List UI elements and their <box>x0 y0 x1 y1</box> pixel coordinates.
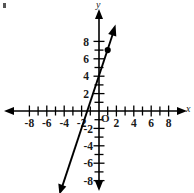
x-tick-label: -4 <box>59 117 69 129</box>
graph-figure: -8 -6 -4 -2 2 4 6 8 x <box>0 0 194 193</box>
plotted-point <box>105 47 111 53</box>
x-axis-left-arrow-icon <box>4 107 14 115</box>
y-tick-label: 4 <box>83 70 89 82</box>
y-tick-label: 8 <box>83 36 89 48</box>
x-axis-label: x <box>185 103 191 114</box>
y-axis-top-arrow-icon <box>95 9 103 19</box>
y-tick-label: -6 <box>83 157 93 169</box>
y-tick-label: -4 <box>83 140 93 152</box>
origin-label: O <box>101 112 110 124</box>
y-tick-label: -2 <box>83 123 93 135</box>
y-tick-label: 6 <box>83 53 89 65</box>
x-tick-label: -8 <box>25 117 35 129</box>
y-axis-group: 8 6 4 2 -2 -4 -6 -8 y O <box>83 0 110 191</box>
x-tick-label: 8 <box>166 117 172 129</box>
x-tick-label: -6 <box>42 117 52 129</box>
x-tick-label: 6 <box>148 117 154 129</box>
y-axis-bottom-arrow-icon <box>95 181 103 191</box>
y-axis-label: y <box>95 0 101 10</box>
x-tick-label: 4 <box>131 117 137 129</box>
y-tick-label: -8 <box>83 175 93 187</box>
x-axis-group: -8 -6 -4 -2 2 4 6 8 x <box>4 103 191 129</box>
x-tick-label: 2 <box>114 117 120 129</box>
y-tick-label: 2 <box>83 88 89 100</box>
coordinate-plane: -8 -6 -4 -2 2 4 6 8 x <box>0 0 194 193</box>
plotted-line-end-arrow-icon <box>108 25 116 37</box>
